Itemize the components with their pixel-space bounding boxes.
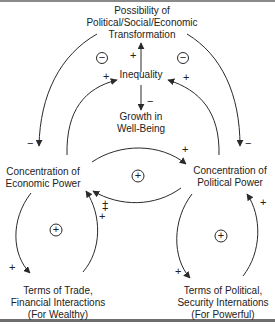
- node-transformation: Possibility of Political/Social/Economic…: [82, 5, 202, 41]
- node-political-line1: Concentration of: [188, 165, 272, 177]
- node-political-line2: Political Power: [188, 177, 272, 189]
- sign-terms-to-political: +: [260, 197, 266, 208]
- loop-sign-bottom-right: +: [217, 230, 225, 241]
- loop-sign-center: +: [134, 170, 142, 181]
- node-inequality: Inequality: [111, 69, 171, 81]
- node-transformation-line2: Political/Social/Economic: [82, 17, 202, 29]
- sign-trade-to-economic-b: +: [99, 211, 105, 222]
- node-trade-line3: (For Wealthy): [8, 309, 108, 321]
- node-terms-political: Terms of Political, Security Internation…: [173, 285, 273, 321]
- sign-transformation-to-political: −: [245, 138, 251, 149]
- arrow-terms-to-political: [243, 194, 258, 276]
- loop-sign-left-top: −: [98, 52, 106, 63]
- sign-inequality-to-transformation: +: [130, 50, 136, 61]
- node-transformation-line1: Possibility of: [82, 5, 202, 17]
- node-growth-line2: Well-Being: [106, 123, 176, 135]
- sign-transformation-to-economic: −: [27, 138, 33, 149]
- sign-inequality-to-growth: −: [147, 96, 153, 107]
- causal-loop-diagram: [0, 0, 275, 328]
- arrow-economic-to-political: [92, 148, 186, 164]
- node-economic-line2: Economic Power: [2, 178, 84, 190]
- node-terms-of-trade: Terms of Trade, Financial Interactions (…: [8, 285, 108, 321]
- node-economic-power: Concentration of Economic Power: [2, 166, 84, 190]
- node-growth-line1: Growth in: [106, 111, 176, 123]
- node-termspol-line1: Terms of Political,: [173, 285, 273, 297]
- loop-sign-bottom-left: +: [52, 224, 60, 235]
- node-termspol-line3: (For Powerful): [173, 309, 273, 321]
- node-transformation-line3: Transformation: [82, 29, 202, 41]
- sign-economic-to-political: +: [182, 144, 188, 155]
- node-political-power: Concentration of Political Power: [188, 165, 272, 189]
- arrow-trade-to-economic: [83, 191, 98, 272]
- node-termspol-line2: Security Internations: [173, 297, 273, 309]
- arrow-transformation-to-economic: [39, 34, 97, 146]
- arrow-transformation-to-political: [187, 34, 240, 146]
- node-trade-line2: Financial Interactions: [8, 297, 108, 309]
- sign-political-to-inequality: +: [183, 72, 189, 83]
- sign-economic-to-trade: +: [9, 262, 15, 273]
- loop-sign-right-top: −: [179, 52, 187, 63]
- arrow-economic-to-trade: [16, 193, 31, 273]
- sign-political-to-terms: +: [175, 266, 181, 277]
- node-economic-line1: Concentration of: [2, 166, 84, 178]
- sign-economic-to-inequality: +: [103, 71, 109, 82]
- node-growth: Growth in Well-Being: [106, 111, 176, 135]
- node-trade-line1: Terms of Trade,: [8, 285, 108, 297]
